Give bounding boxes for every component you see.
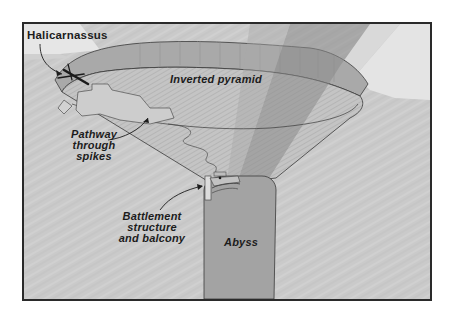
label-pathway: Pathway through spikes <box>64 129 124 162</box>
label-abyss: Abyss <box>224 237 258 248</box>
label-halicarnassus: Halicarnassus <box>27 30 108 41</box>
label-inverted-pyramid: Inverted pyramid <box>170 74 262 85</box>
label-battlement: Battlement structure and balcony <box>112 211 192 244</box>
